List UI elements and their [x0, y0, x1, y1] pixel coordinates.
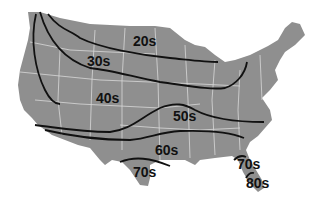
- zone-label-40s: 40s: [96, 90, 120, 106]
- zone-label-30s: 30s: [87, 53, 111, 69]
- zone-label-70s-texas: 70s: [133, 164, 157, 180]
- us-temperature-map: 20s 30s 40s 50s 60s 70s 70s 80s: [0, 0, 315, 205]
- zone-label-60s: 60s: [155, 142, 179, 158]
- zone-label-20s: 20s: [133, 33, 157, 49]
- zone-label-80s: 80s: [246, 175, 270, 191]
- zone-label-50s: 50s: [173, 108, 197, 124]
- zone-label-70s-florida: 70s: [237, 156, 261, 172]
